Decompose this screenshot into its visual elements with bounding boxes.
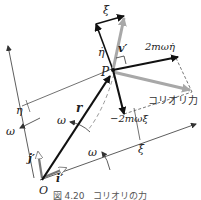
force-eta-label: 2mωη̇ <box>144 41 175 52</box>
eta-tick <box>26 100 30 112</box>
coriolis-label: コリオリ力 <box>148 94 198 106</box>
right-angle-mark <box>116 56 126 64</box>
omega-arrow-right <box>102 152 110 170</box>
j-prime-vector <box>38 152 42 178</box>
coriolis-force-vector <box>113 72 190 90</box>
coriolis-diagram: ξ̇ η̇ v′ 2mωη̇ コリオリ力 P −2mωξ̇ r η ξ ω ω … <box>0 0 201 200</box>
j-prime-label: j′ <box>26 152 35 165</box>
force-xi-vector <box>113 70 124 114</box>
point-p <box>111 68 115 72</box>
omega-mid-label: ω <box>57 114 66 127</box>
xi-dot-label: ξ̇ <box>103 4 110 17</box>
v-prime-label: v′ <box>118 42 127 55</box>
xi-axis-label: ξ <box>138 143 145 156</box>
omega-right-label: ω <box>88 146 97 159</box>
figure-caption: 図 4.20 コリオリの力 <box>53 190 148 200</box>
origin-label: O <box>39 184 48 197</box>
r-vector <box>42 76 110 180</box>
xi-dot-vector <box>96 16 124 24</box>
r-label: r <box>76 101 84 115</box>
point-p-label: P <box>100 65 110 79</box>
force-eta-vector <box>113 57 178 70</box>
eta-axis-label: η <box>16 104 23 117</box>
force-xi-label: −2mωξ̇ <box>110 113 148 124</box>
i-prime-label: i′ <box>56 172 63 185</box>
eta-dot-label: η̇ <box>98 46 105 59</box>
xi-axis <box>40 124 196 180</box>
omega-left-label: ω <box>6 125 15 138</box>
